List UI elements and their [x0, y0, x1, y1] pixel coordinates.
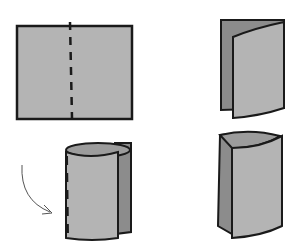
curved-arrow-icon	[22, 165, 50, 212]
step-3-rolled-cylinder	[22, 143, 131, 240]
step-2-folded-sheet	[221, 20, 284, 118]
step-1-flat-sheet	[17, 22, 132, 119]
step-4-opened-cylinder	[218, 132, 282, 238]
folding-diagram	[0, 0, 308, 249]
